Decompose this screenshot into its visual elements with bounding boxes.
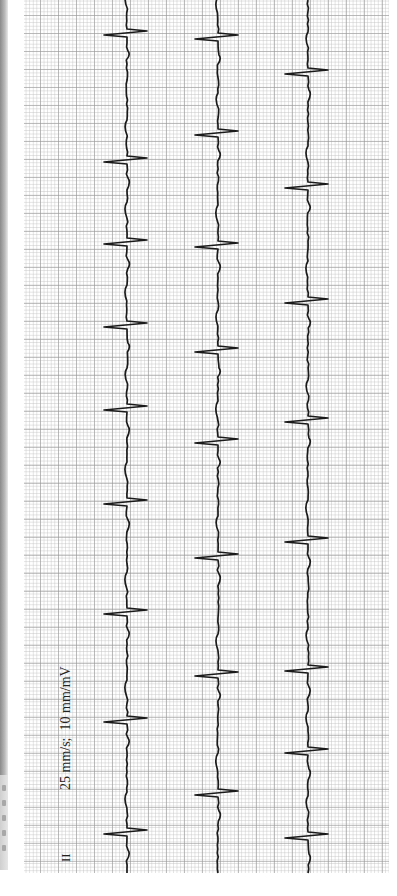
ecg-trace-strip-2 bbox=[195, 0, 238, 873]
ecg-trace-strip-3 bbox=[285, 0, 328, 873]
scale-annotation: 25 mm/s; 10 mm/mV bbox=[58, 666, 74, 790]
ecg-trace-strip-1 bbox=[104, 0, 147, 873]
lead-label: II bbox=[58, 853, 74, 862]
